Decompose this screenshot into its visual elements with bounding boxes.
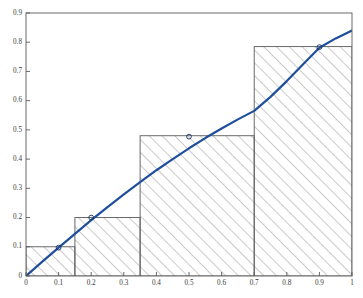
y-tick-label: 0.9 bbox=[13, 9, 22, 17]
figure-canvas: 00.10.20.30.40.50.60.70.80.9 00.10.20.30… bbox=[0, 0, 363, 298]
y-tick-label: 0.8 bbox=[13, 38, 22, 46]
x-tick-label: 0.9 bbox=[315, 279, 324, 287]
x-tick-label: 0.6 bbox=[217, 279, 226, 287]
plot-area: 00.10.20.30.40.50.60.70.80.9 00.10.20.30… bbox=[0, 0, 363, 298]
y-tick-label: 0.5 bbox=[13, 126, 22, 134]
x-tick-label: 0.7 bbox=[250, 279, 259, 287]
x-tick-label: 0.3 bbox=[119, 279, 128, 287]
y-tick-label: 0.2 bbox=[13, 213, 22, 221]
y-tick-label: 0.7 bbox=[13, 67, 22, 75]
x-tick-label: 1 bbox=[350, 279, 354, 287]
x-tick-label: 0.8 bbox=[282, 279, 291, 287]
y-tick-label: 0.6 bbox=[13, 96, 22, 104]
rectangle-bar bbox=[140, 136, 254, 276]
x-tick-label: 0.1 bbox=[54, 279, 63, 287]
x-tick-label: 0.2 bbox=[87, 279, 96, 287]
x-tick-label: 0.4 bbox=[152, 279, 161, 287]
rectangle-bar bbox=[26, 247, 75, 276]
y-tick-label: 0.4 bbox=[13, 155, 22, 163]
x-tick-label: 0.5 bbox=[185, 279, 194, 287]
x-tick-label: 0 bbox=[24, 279, 28, 287]
y-tick-label: 0.3 bbox=[13, 184, 22, 192]
y-tick-label: 0 bbox=[18, 272, 22, 280]
rectangle-bar bbox=[254, 47, 352, 276]
y-tick-label: 0.1 bbox=[13, 242, 22, 250]
